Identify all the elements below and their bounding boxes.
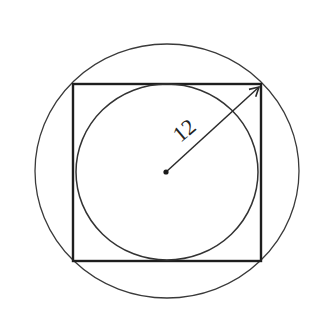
diagram-canvas: 12 bbox=[0, 0, 320, 326]
radius-label: 12 bbox=[168, 114, 201, 147]
geometry-figure: 12 bbox=[0, 0, 320, 326]
center-point bbox=[163, 169, 168, 174]
